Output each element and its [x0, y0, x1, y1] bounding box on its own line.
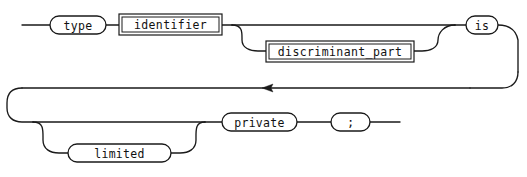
node-identifier[interactable]: identifier [119, 14, 222, 35]
rail-fork-into-limited [33, 122, 68, 153]
node-semicolon[interactable]: ; [331, 113, 370, 131]
node-discriminant-part-label: discriminant_part [278, 45, 403, 59]
node-is-label: is [475, 19, 489, 33]
rail-merge-from-discriminant [414, 25, 455, 51]
node-type[interactable]: type [50, 16, 106, 34]
node-limited-label: limited [94, 147, 145, 161]
node-limited[interactable]: limited [68, 144, 171, 162]
syntax-diagram: type identifier discriminant_part is lim… [0, 0, 527, 177]
railroad-diagram-canvas: type identifier discriminant_part is lim… [0, 0, 527, 177]
node-semicolon-label: ; [347, 115, 354, 129]
node-identifier-label: identifier [134, 18, 207, 32]
node-discriminant-part[interactable]: discriminant_part [266, 41, 414, 62]
rail-is-out-down [498, 25, 518, 72]
rail-wrap-left [7, 88, 33, 122]
rail-fork-into-discriminant [232, 25, 266, 51]
node-is[interactable]: is [466, 16, 498, 34]
rail-merge-from-limited [171, 122, 205, 153]
rail-wrap-right-bottom [470, 72, 518, 88]
node-type-label: type [64, 19, 93, 33]
node-private[interactable]: private [222, 113, 297, 131]
node-private-label: private [234, 116, 285, 130]
